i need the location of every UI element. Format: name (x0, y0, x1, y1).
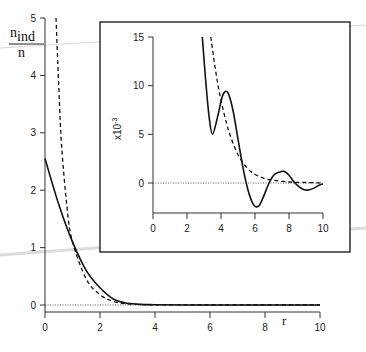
x-tick-label: 10 (317, 223, 329, 234)
x-tick-label: 4 (218, 223, 224, 234)
y-tick-label: 15 (133, 32, 145, 43)
y-tick-label: 5 (30, 13, 36, 24)
x-tick-label: 2 (184, 223, 190, 234)
y-axis-label-denominator: n (18, 45, 25, 60)
x-axis-label: r (282, 313, 287, 328)
y-tick-label: 0 (138, 178, 144, 189)
x-tick-label: 0 (150, 223, 156, 234)
y-tick-label: 10 (133, 80, 145, 91)
x-tick-label: 0 (42, 322, 48, 333)
x-tick-label: 6 (252, 223, 258, 234)
y-tick-label: 3 (30, 127, 36, 138)
x-tick-label: 4 (152, 322, 158, 333)
x-tick-label: 10 (314, 322, 326, 333)
x-tick-label: 6 (207, 322, 213, 333)
y-axis-label-numerator: nind (10, 25, 35, 44)
x-tick-label: 2 (97, 322, 103, 333)
y-tick-label: 5 (138, 129, 144, 140)
y-tick-label: 1 (30, 242, 36, 253)
x-tick-label: 8 (286, 223, 292, 234)
inset-plot: 0510150246810 x10-3 (100, 22, 350, 252)
x-tick-label: 8 (262, 322, 268, 333)
y-tick-label: 4 (30, 70, 36, 81)
chart-canvas: 0123450246810 nind n r 0510150246810 x10… (0, 0, 366, 352)
y-tick-label: 0 (30, 300, 36, 311)
y-tick-label: 2 (30, 185, 36, 196)
